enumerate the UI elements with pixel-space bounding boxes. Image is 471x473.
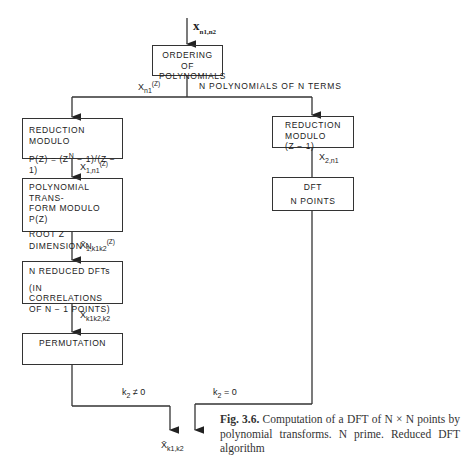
dft-box: DFTN POINTS [272,177,354,211]
permutation-box: PERMUTATION [22,333,123,365]
xkk-label: X̄k1k2,k2 [80,310,110,322]
polynomial-transform-box: POLYNOMIAL TRANS- FORM MODULO P(Z) ROOT … [22,178,123,232]
reduction-modulo-z1-box: REDUCTIONMODULO(Z − 1) [272,116,354,148]
k2-nonzero-label: k2 ≠ 0 [122,387,145,399]
x1k-label: X̄1,k1k2(Z) [80,238,115,252]
x2n1-label: X2,n1 [319,152,339,164]
input-signal-label: xn1,n2 [193,18,216,36]
xn1-label: Xn1(Z) [138,80,160,94]
ordering-box: ORDERING OFPOLYNOMIALS [152,45,223,76]
reduction-modulo-pz-box: REDUCTION MODULO P(Z) = (ZN − 1)/(Z − 1) [22,118,123,159]
figure-caption: Fig. 3.6. Computation of a DFT of N × N … [220,412,460,456]
k2-zero-label: k2 = 0 [213,387,237,399]
output-label: X̄k1,k2 [161,440,184,452]
n-polynomials-label: N POLYNOMIALS OF N TERMS [199,81,342,91]
x1n1-label: X1,n1(Z) [80,160,108,174]
reduced-dfts-box: N REDUCED DFTs (IN CORRELATIONS OF N − 1… [22,261,123,304]
